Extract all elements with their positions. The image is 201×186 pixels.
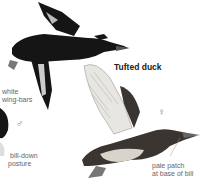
pale-patch-label-line1: pale patch: [152, 162, 184, 170]
wing-bars-label-line2: wing-bars: [2, 96, 32, 104]
pale-patch-label-line2: at base of bill: [152, 170, 193, 178]
bill-down-label-line1: bill-down: [10, 152, 38, 160]
wing-bars-label-line1: white: [2, 88, 18, 96]
male-bill-down-silhouette: [0, 108, 8, 156]
male-symbol: ♂: [16, 118, 24, 129]
female-symbol: ♀: [158, 106, 166, 117]
species-title: Tufted duck: [114, 62, 162, 72]
female-tufted-duck: [82, 65, 200, 179]
bill-down-label-line2: posture: [8, 160, 31, 168]
field-guide-illustration: Tufted duck white wing-bars ♂ ♀ bill-dow…: [0, 0, 201, 186]
